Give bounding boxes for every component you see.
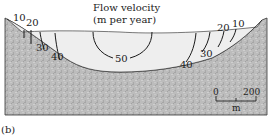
title-line1: Flow velocity [93,2,160,13]
label-right-20: 20 [217,22,230,33]
label-right-30: 30 [200,48,213,59]
label-50: 50 [115,53,128,64]
label-left-10: 10 [13,12,26,23]
glacier-cross-section-diagram: 10 20 30 40 50 40 30 20 10 Flow velocity… [0,0,272,138]
label-left-30: 30 [36,42,49,53]
label-left-40: 40 [51,51,64,62]
label-right-10: 10 [232,18,245,29]
label-left-20: 20 [26,17,39,28]
label-right-40: 40 [180,59,193,70]
scale-end: 200 [243,87,260,97]
title-line2: (m per year) [93,14,156,25]
panel-label: (b) [1,124,15,135]
scale-unit: m [232,103,241,113]
scale-start: 0 [213,87,219,97]
